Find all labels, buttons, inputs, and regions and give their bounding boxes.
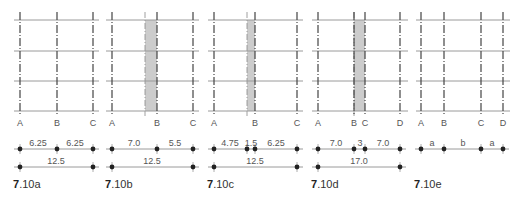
figure-caption: 7.10e bbox=[414, 178, 442, 190]
grid-diagrams-svg: ABC6.256.2512.5ABC7.05.512.5ABC4.751.56.… bbox=[0, 0, 520, 198]
dimension-value: 17.0 bbox=[350, 156, 368, 166]
dimension-row-2: 12.5 bbox=[14, 156, 99, 172]
panel-7-10d: ABCD7.037.017.0 bbox=[312, 12, 408, 172]
caption-number: .10d bbox=[317, 178, 338, 190]
dimension-value: a bbox=[429, 138, 434, 148]
dimension-node-dot bbox=[191, 165, 196, 170]
axis-label-d: D bbox=[500, 118, 507, 128]
axis-label-a: A bbox=[211, 118, 217, 128]
dimension-node-dot bbox=[91, 147, 96, 152]
caption-number: .10c bbox=[213, 178, 234, 190]
dimension-value: 6.25 bbox=[267, 138, 285, 148]
dimension-row-1: 7.05.5 bbox=[106, 138, 199, 154]
axis-label-d: D bbox=[397, 118, 404, 128]
axis-label-a: A bbox=[315, 118, 321, 128]
dimension-value: 6.25 bbox=[29, 138, 47, 148]
structural-grid-figure: ABC6.256.2512.5ABC7.05.512.5ABC4.751.56.… bbox=[0, 0, 520, 198]
dimension-value: 6.25 bbox=[66, 138, 84, 148]
axis-label-a: A bbox=[418, 118, 424, 128]
figure-caption: 7.10c bbox=[207, 178, 234, 190]
dimension-row-2: 12.5 bbox=[208, 156, 303, 172]
panel-7-10b: ABC7.05.512.5 bbox=[106, 12, 199, 172]
axis-label-a: A bbox=[109, 118, 115, 128]
dimension-value: 12.5 bbox=[143, 156, 161, 166]
dimension-node-dot bbox=[18, 165, 23, 170]
figure-caption: 7.10d bbox=[311, 178, 339, 190]
panel-7-10a: ABC6.256.2512.5 bbox=[14, 12, 99, 172]
dimension-value: 7.0 bbox=[128, 138, 141, 148]
dimension-node-dot bbox=[155, 147, 160, 152]
dimension-value: b bbox=[460, 138, 465, 148]
core-band bbox=[247, 20, 255, 111]
dimension-node-dot bbox=[419, 147, 424, 152]
dimension-row-1: 4.751.56.25 bbox=[208, 138, 303, 154]
axis-label-b: B bbox=[252, 118, 258, 128]
dimension-node-dot bbox=[501, 147, 506, 152]
dimension-node-dot bbox=[55, 147, 60, 152]
caption-number: .10e bbox=[420, 178, 441, 190]
dimension-node-dot bbox=[295, 165, 300, 170]
axis-label-b: B bbox=[441, 118, 447, 128]
dimension-row-1: 6.256.25 bbox=[14, 138, 99, 154]
dimension-node-dot bbox=[212, 165, 217, 170]
dimension-node-dot bbox=[110, 165, 115, 170]
dimension-node-dot bbox=[316, 165, 321, 170]
dimension-node-dot bbox=[479, 147, 484, 152]
dimension-node-dot bbox=[352, 147, 357, 152]
dimension-value: 4.75 bbox=[221, 138, 239, 148]
figure-caption: 7.10a bbox=[13, 178, 41, 190]
dimension-node-dot bbox=[398, 165, 403, 170]
caption-number: .10b bbox=[111, 178, 132, 190]
dimension-value: 3 bbox=[357, 138, 362, 148]
dimension-value: 12.5 bbox=[246, 156, 264, 166]
dimension-node-dot bbox=[398, 147, 403, 152]
dimension-node-dot bbox=[442, 147, 447, 152]
dimension-node-dot bbox=[295, 147, 300, 152]
dimension-node-dot bbox=[316, 147, 321, 152]
core-band bbox=[145, 20, 157, 111]
dimension-row-2: 17.0 bbox=[312, 156, 406, 172]
axis-label-a: A bbox=[17, 118, 23, 128]
dimension-value: 7.0 bbox=[330, 138, 343, 148]
axis-label-c: C bbox=[294, 118, 301, 128]
dimension-value: 5.5 bbox=[169, 138, 182, 148]
dimension-node-dot bbox=[212, 147, 217, 152]
axis-label-c: C bbox=[190, 118, 197, 128]
axis-label-b: B bbox=[351, 118, 357, 128]
axis-label-c: C bbox=[90, 118, 97, 128]
core-band bbox=[354, 20, 365, 111]
dimension-value: 1.5 bbox=[245, 138, 258, 148]
dimension-node-dot bbox=[91, 165, 96, 170]
dimension-row-1: aba bbox=[415, 138, 509, 154]
dimension-node-dot bbox=[363, 147, 368, 152]
dimension-value: 12.5 bbox=[47, 156, 65, 166]
dimension-row-1: 7.037.0 bbox=[312, 138, 406, 154]
panel-7-10c: ABC4.751.56.2512.5 bbox=[208, 12, 303, 172]
dimension-node-dot bbox=[191, 147, 196, 152]
dimension-value: 7.0 bbox=[377, 138, 390, 148]
axis-label-c: C bbox=[362, 118, 369, 128]
dimension-node-dot bbox=[110, 147, 115, 152]
panel-7-10e: ABCDaba bbox=[415, 12, 510, 154]
axis-label-b: B bbox=[54, 118, 60, 128]
axis-label-b: B bbox=[154, 118, 160, 128]
figure-caption: 7.10b bbox=[105, 178, 133, 190]
caption-number: .10a bbox=[19, 178, 40, 190]
dimension-value: a bbox=[489, 138, 494, 148]
axis-label-c: C bbox=[478, 118, 485, 128]
dimension-row-2: 12.5 bbox=[106, 156, 199, 172]
dimension-node-dot bbox=[18, 147, 23, 152]
